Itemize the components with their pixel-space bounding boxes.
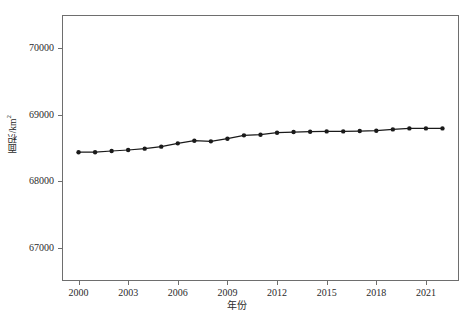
data-point-marker (308, 130, 312, 134)
data-point-marker (242, 133, 246, 137)
data-point-marker (407, 126, 411, 130)
y-axis-title: 面积/km2 (4, 115, 18, 153)
y-tick-label: 68000 (6, 176, 54, 186)
data-point-marker (109, 149, 113, 153)
series-line (79, 128, 443, 152)
y-axis-title-superscript: 2 (5, 115, 13, 119)
data-point-marker (275, 131, 279, 135)
x-tick-mark (227, 281, 228, 285)
x-tick-label: 2006 (158, 288, 198, 298)
x-tick-mark (327, 281, 328, 285)
y-tick-label: 70000 (6, 43, 54, 53)
data-point-marker (159, 144, 163, 148)
x-axis-title: 年份 (0, 300, 473, 311)
line-series-canvas (62, 15, 459, 281)
data-point-marker (258, 133, 262, 137)
x-tick-mark (128, 281, 129, 285)
data-point-marker (143, 146, 147, 150)
y-tick-mark (58, 181, 63, 182)
data-point-marker (424, 126, 428, 130)
data-point-marker (374, 129, 378, 133)
data-point-marker (76, 150, 80, 154)
data-point-marker (358, 129, 362, 133)
x-tick-label: 2015 (307, 288, 347, 298)
data-point-marker (225, 136, 229, 140)
x-tick-label: 2003 (108, 288, 148, 298)
x-tick-label: 2018 (356, 288, 396, 298)
data-point-marker (93, 150, 97, 154)
x-tick-mark (178, 281, 179, 285)
y-tick-label: 67000 (6, 243, 54, 253)
chart-figure: 67000680006900070000 2000200320062009201… (0, 0, 473, 327)
x-tick-label: 2000 (59, 288, 99, 298)
y-tick-mark (58, 248, 63, 249)
x-tick-mark (277, 281, 278, 285)
data-point-marker (176, 141, 180, 145)
y-axis-title-text: 面积/km (8, 119, 18, 154)
x-tick-mark (79, 281, 80, 285)
x-tick-label: 2012 (257, 288, 297, 298)
y-tick-mark (58, 48, 63, 49)
data-point-marker (291, 130, 295, 134)
data-point-marker (192, 138, 196, 142)
data-point-marker (391, 127, 395, 131)
data-point-marker (126, 148, 130, 152)
x-tick-mark (376, 281, 377, 285)
x-tick-label: 2021 (406, 288, 446, 298)
x-tick-mark (426, 281, 427, 285)
data-point-marker (440, 126, 444, 130)
data-point-marker (209, 139, 213, 143)
data-point-marker (341, 129, 345, 133)
data-point-marker (324, 129, 328, 133)
x-tick-label: 2009 (207, 288, 247, 298)
y-tick-mark (58, 115, 63, 116)
